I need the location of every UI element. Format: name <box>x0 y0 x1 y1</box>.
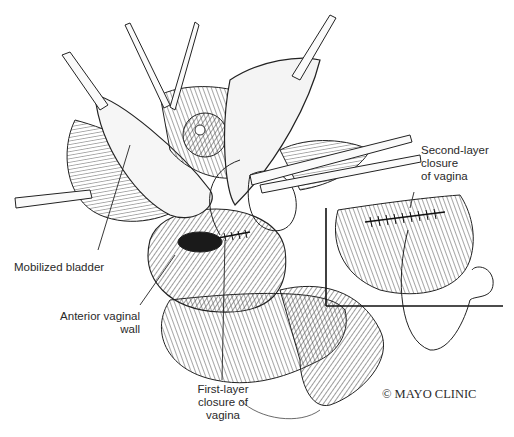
vaginal-dome <box>148 209 286 312</box>
surgical-illustration: Mobilized bladder Anterior vaginal wall … <box>0 0 514 437</box>
label-line: wall <box>60 323 140 336</box>
vaginal-opening <box>178 232 222 252</box>
label-line: Second-layer <box>421 144 489 157</box>
label-line: vagina <box>195 409 251 422</box>
retracted-tissues <box>67 58 370 231</box>
copyright-notice: © MAYO CLINIC <box>382 387 476 402</box>
label-line: Anterior vaginal <box>60 310 140 323</box>
label-anterior-vaginal-wall: Anterior vaginal wall <box>60 310 140 336</box>
cut-off-caption <box>8 431 508 437</box>
illustration-artwork <box>0 0 514 437</box>
label-mobilized-bladder: Mobilized bladder <box>14 261 104 274</box>
label-second-layer-closure: Second-layer closure of vagina <box>421 144 489 183</box>
label-line: closure <box>421 157 489 170</box>
label-line: First-layer <box>195 383 251 396</box>
label-line: of vagina <box>421 170 489 183</box>
label-line: closure of <box>195 396 251 409</box>
label-first-layer-closure: First-layer closure of vagina <box>195 383 251 422</box>
